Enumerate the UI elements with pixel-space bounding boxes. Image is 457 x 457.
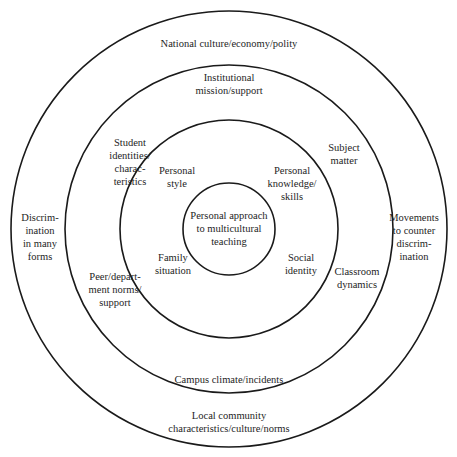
label-line: knowledge/: [254, 177, 330, 190]
label-line: style: [147, 177, 207, 190]
label-line: Family: [143, 251, 203, 264]
label-line: National culture/economy/polity: [129, 37, 329, 50]
label-movements: Movements to counter discrim- ination: [384, 211, 444, 263]
label-line: forms: [14, 250, 66, 263]
label-line: in many: [14, 237, 66, 250]
label-institutional-mission: Institutional mission/support: [169, 71, 289, 97]
label-line: identity: [274, 264, 328, 277]
label-local-community: Local community characteristics/culture/…: [139, 409, 319, 435]
label-line: ment norms/: [75, 283, 155, 296]
label-line: Local community: [139, 409, 319, 422]
label-personal-style: Personal style: [147, 164, 207, 190]
label-national-culture: National culture/economy/polity: [129, 37, 329, 50]
label-line: identities/: [95, 149, 165, 162]
label-social-identity: Social identity: [274, 251, 328, 277]
label-family-situation: Family situation: [143, 251, 203, 277]
label-campus-climate: Campus climate/incidents: [159, 373, 299, 386]
label-personal-knowledge: Personal knowledge/ skills: [254, 164, 330, 203]
label-line: characteristics/culture/norms: [139, 422, 319, 435]
label-classroom-dynamics: Classroom dynamics: [322, 265, 392, 291]
label-line: dynamics: [322, 278, 392, 291]
label-line: Subject: [314, 141, 374, 154]
label-line: Discrim-: [14, 211, 66, 224]
label-line: Personal: [147, 164, 207, 177]
label-line: ination: [384, 250, 444, 263]
label-line: situation: [143, 264, 203, 277]
label-line: to counter: [384, 224, 444, 237]
label-line: Institutional: [169, 71, 289, 84]
label-line: Classroom: [322, 265, 392, 278]
label-line: Personal: [254, 164, 330, 177]
label-line: to multicultural: [179, 222, 279, 235]
label-line: Campus climate/incidents: [159, 373, 299, 386]
label-line: teaching: [179, 235, 279, 248]
label-line: Social: [274, 251, 328, 264]
label-discrimination: Discrim- ination in many forms: [14, 211, 66, 263]
label-line: ination: [14, 224, 66, 237]
label-line: Movements: [384, 211, 444, 224]
label-line: Student: [95, 136, 165, 149]
label-line: mission/support: [169, 84, 289, 97]
label-line: Personal approach: [179, 209, 279, 222]
label-line: support: [75, 296, 155, 309]
label-personal-approach: Personal approach to multicultural teach…: [179, 209, 279, 248]
label-line: discrim-: [384, 237, 444, 250]
label-line: skills: [254, 190, 330, 203]
